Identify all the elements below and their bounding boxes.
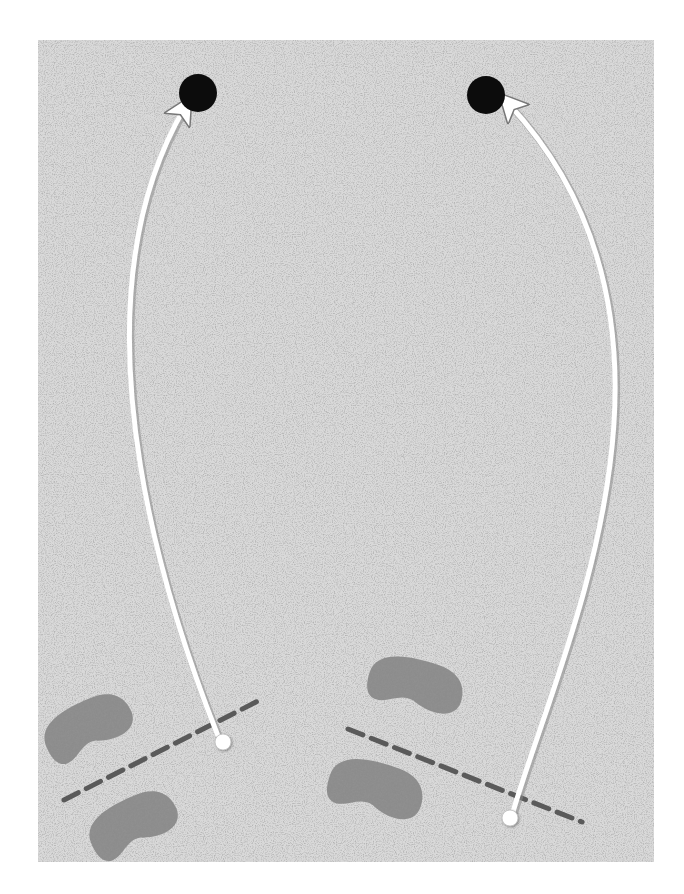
- golf-ball-icon: [502, 810, 518, 826]
- sand-texture: [38, 40, 654, 862]
- putting-green: [38, 40, 654, 862]
- hole-icon: [179, 74, 217, 112]
- golf-ball-icon: [215, 734, 231, 750]
- diagram-canvas: [0, 0, 684, 894]
- putting-diagram: [0, 0, 684, 894]
- hole-icon: [467, 76, 505, 114]
